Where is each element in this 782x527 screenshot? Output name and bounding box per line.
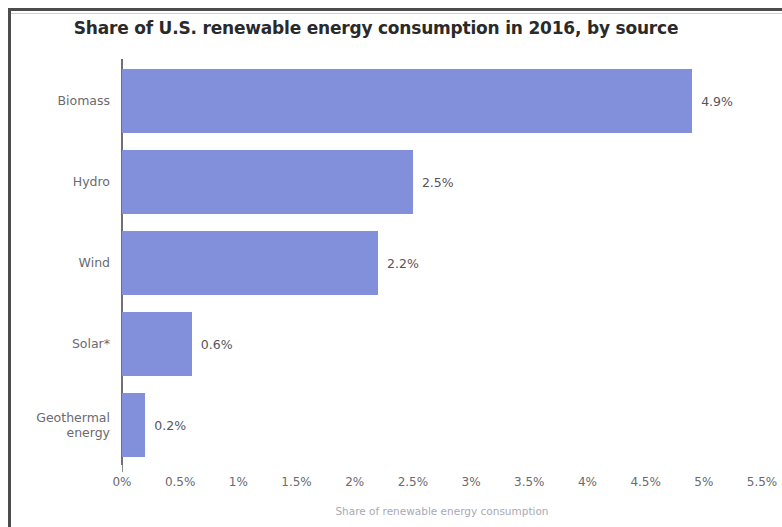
x-axis-title: Share of renewable energy consumption [122,505,762,517]
axis-tick-mark [122,465,123,472]
x-tick-label: 2.5% [398,475,429,489]
category-label: Wind [4,255,110,270]
bar [122,150,413,214]
bar [122,393,145,457]
bar-chart: Share of U.S. renewable energy consumpti… [11,13,782,527]
x-tick-label: 0.5% [165,475,196,489]
category-label: Solar* [4,336,110,351]
bar [122,69,692,133]
x-tick-label: 2% [345,475,364,489]
x-tick-label: 1% [229,475,248,489]
x-axis-ticks: 0%0.5%1%1.5%2%2.5%3%3.5%4%4.5%5%5.5% [122,465,762,499]
bar-row: 0.2% [122,393,762,457]
bar-value-label: 4.9% [701,94,733,109]
x-tick-label: 3% [462,475,481,489]
scanned-page-frame: Share of U.S. renewable energy consumpti… [0,0,782,527]
bar-value-label: 2.2% [387,256,419,271]
bar-row: 2.5% [122,150,762,214]
bar-value-label: 2.5% [422,175,454,190]
bar-value-label: 0.2% [154,418,186,433]
x-tick-label: 4% [578,475,597,489]
x-tick-label: 5% [694,475,713,489]
x-tick-label: 3.5% [514,475,545,489]
bar-value-label: 0.6% [201,337,233,352]
category-label: Biomass [4,93,110,108]
bar-row: 4.9% [122,69,762,133]
x-tick-label: 4.5% [630,475,661,489]
bar-row: 2.2% [122,231,762,295]
x-tick-label: 5.5% [747,475,778,489]
chart-title: Share of U.S. renewable energy consumpti… [11,18,741,38]
x-tick-label: 0% [112,475,131,489]
plot-area: BiomassHydroWindSolar*Geothermal energy … [122,59,762,465]
bar [122,312,192,376]
frame-top-rule [8,8,782,11]
bar-row: 0.6% [122,312,762,376]
category-label: Geothermal energy [4,410,110,440]
bar [122,231,378,295]
x-tick-label: 1.5% [281,475,312,489]
y-axis-category-labels: BiomassHydroWindSolar*Geothermal energy [4,59,110,465]
category-label: Hydro [4,174,110,189]
